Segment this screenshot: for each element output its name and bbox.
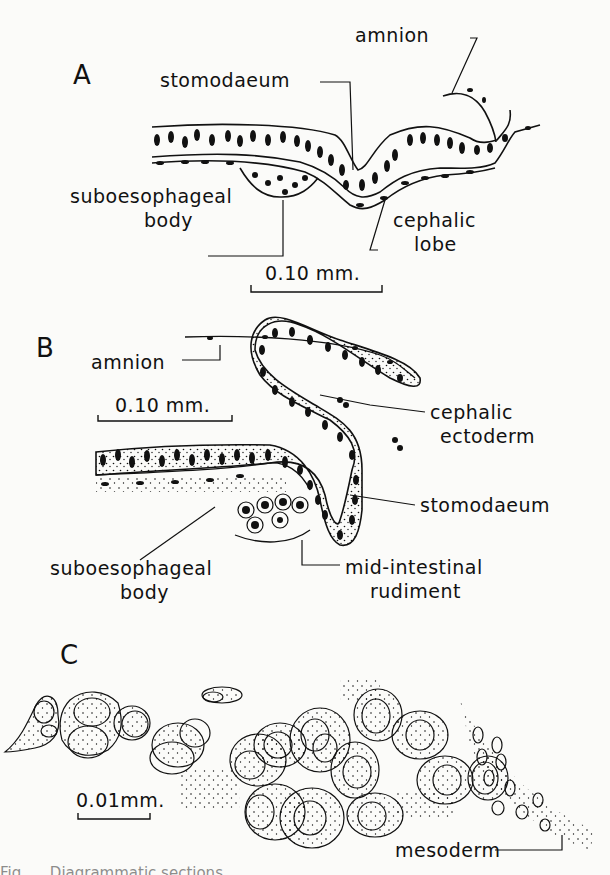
label-b-amnion: amnion	[91, 352, 165, 372]
label-c-mesoderm: mesoderm	[395, 840, 500, 860]
label-a-cephalic-lobe: lobe	[414, 234, 457, 254]
label-b-suboesophageal-body: body	[120, 582, 169, 602]
scale-bar-a-label: 0.10 mm.	[265, 263, 360, 283]
panel-c-cells	[60, 687, 508, 848]
figure-caption-partial: Fig. ... Diagrammatic sections ...	[0, 866, 610, 875]
scale-bar-c-label: 0.01mm.	[76, 790, 165, 810]
label-b-midintestinal-rudiment: rudiment	[370, 581, 461, 601]
panel-c-letter: C	[60, 642, 78, 668]
label-a-amnion: amnion	[355, 25, 429, 45]
label-b-cephalic-ectoderm: ectoderm	[440, 426, 535, 446]
panel-b-letter: B	[36, 335, 54, 361]
label-b-stomodaeum: stomodaeum	[420, 495, 550, 515]
scale-bar-b-label: 0.10 mm.	[115, 395, 210, 415]
label-a-suboesophageal-body: body	[144, 210, 193, 230]
panel-a-letter: A	[73, 62, 91, 88]
label-a-stomodaeum: stomodaeum	[160, 70, 290, 90]
label-b-suboesophageal: suboesophageal	[50, 558, 212, 578]
label-a-suboesophageal: suboesophageal	[70, 186, 232, 206]
panel-c-drawing	[5, 680, 595, 850]
label-b-cephalic: cephalic	[430, 402, 513, 422]
label-a-cephalic: cephalic	[393, 210, 476, 230]
label-b-midintestinal: mid-intestinal	[345, 557, 483, 577]
